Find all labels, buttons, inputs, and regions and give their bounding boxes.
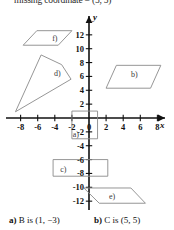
answer-a: a) B is (1, −3) bbox=[9, 215, 60, 225]
answer-b-key: b) bbox=[94, 215, 102, 225]
y-tick-label-4: 4 bbox=[80, 85, 85, 95]
shape-d bbox=[15, 55, 71, 112]
y-axis-name-label: y bbox=[92, 12, 98, 22]
x-tick-label-2: 2 bbox=[104, 122, 108, 132]
answer-b-text: C is (5, 5) bbox=[104, 215, 140, 225]
x-tick-label--4: -4 bbox=[51, 122, 59, 132]
x-tick-label--6: -6 bbox=[34, 122, 41, 132]
answer-a-key: a) bbox=[9, 215, 17, 225]
x-tick-label-0: 0 bbox=[87, 122, 91, 132]
y-tick-label-2: 2 bbox=[80, 99, 84, 109]
answer-b: b) C is (5, 5) bbox=[94, 215, 140, 225]
y-tick-label--12: -12 bbox=[73, 196, 84, 206]
x-tick-label-4: 4 bbox=[121, 122, 126, 132]
y-tick-label-8: 8 bbox=[80, 58, 84, 68]
shape-label-b: b) bbox=[131, 70, 138, 79]
shape-label-d: d) bbox=[54, 69, 61, 78]
coordinate-plane-figure: -8-6-4-20246812108642-2-4-6-8-10-12 a)b)… bbox=[0, 8, 174, 214]
y-tick-label--8: -8 bbox=[77, 168, 84, 178]
graph-svg: -8-6-4-20246812108642-2-4-6-8-10-12 a)b)… bbox=[0, 8, 174, 214]
missing-coordinate-header: missing coordinate = (5, 5) bbox=[14, 0, 174, 6]
y-axis-arrowhead bbox=[86, 16, 93, 23]
y-tick-label-12: 12 bbox=[76, 30, 85, 40]
y-tick-label-6: 6 bbox=[80, 71, 84, 81]
shape-label-f: f) bbox=[52, 34, 58, 43]
shape-label-e: e) bbox=[109, 192, 116, 201]
x-axis-name-label: x bbox=[159, 120, 165, 130]
shape-label-a: a) bbox=[73, 130, 80, 139]
answer-a-text: B is (1, −3) bbox=[19, 215, 60, 225]
shape-f bbox=[23, 31, 72, 46]
answers-row: a) B is (1, −3) b) C is (5, 5) bbox=[0, 215, 174, 230]
y-tick-label-10: 10 bbox=[76, 44, 85, 54]
y-tick-label--6: -6 bbox=[77, 155, 84, 165]
shape-label-c: c) bbox=[60, 165, 67, 174]
y-tick-label--10: -10 bbox=[73, 182, 84, 192]
x-tick-label-6: 6 bbox=[138, 122, 142, 132]
y-tick-label--4: -4 bbox=[77, 141, 85, 151]
x-tick-label--8: -8 bbox=[17, 122, 24, 132]
x-tick-label-8: 8 bbox=[155, 122, 159, 132]
